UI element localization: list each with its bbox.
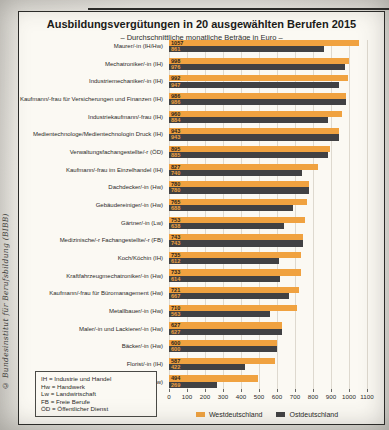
category-label: Medizinische/-r Fachangestellte/-r (FB)	[0, 234, 166, 246]
axis-tick	[223, 389, 224, 392]
ost-value-label: 612	[171, 258, 180, 264]
legend-label: Ostdeutschland	[289, 411, 338, 418]
category-label: Metallbauer/-in (Hw)	[0, 305, 166, 317]
ost-value-label: 638	[171, 223, 180, 229]
ost-value-label: 884	[171, 117, 180, 123]
copyright-sidebar-text: © Bundesinstitut für Berufsbildung (BIBB…	[1, 178, 10, 426]
category-label: Dachdecker/-in (Hw)	[0, 181, 166, 193]
legend-item-ost: Ostdeutschland	[276, 411, 338, 418]
category-label: Gebäudereiniger/-in (Hw)	[0, 199, 166, 211]
axis-tick	[367, 389, 368, 392]
bar-plot-area: 1057861998976992947986986960884943943895…	[169, 40, 367, 390]
ost-bar: 612	[169, 258, 279, 264]
abbreviation-line: FB = Freie Berufe	[41, 398, 151, 406]
ost-bar: 600	[169, 346, 277, 352]
category-label: Florist/-in (IH)	[0, 358, 166, 370]
chart-title: Ausbildungsvergütungen in 20 ausgewählte…	[19, 18, 384, 30]
legend-swatch-icon	[196, 412, 205, 417]
ost-bar: 667	[169, 293, 289, 299]
ost-bar: 743	[169, 240, 303, 246]
category-label-column: Maurer/-in (IH/Hw)Mechatroniker/-in (IH)…	[19, 40, 166, 390]
ost-value-label: 943	[171, 134, 180, 140]
ost-bar: 688	[169, 205, 293, 211]
ost-value-label: 627	[171, 329, 180, 335]
axis-tick-label: 1100	[356, 393, 378, 400]
ost-value-label: 269	[171, 382, 180, 388]
ost-bar: 740	[169, 170, 302, 176]
category-label: Kaufmann/-frau im Einzelhandel (IH)	[0, 164, 166, 176]
category-label: Kaufmann/-frau für Büromanagement (Hw)	[0, 287, 166, 299]
axis-tick	[205, 389, 206, 392]
category-label: Mechatroniker/-in (IH)	[0, 58, 166, 70]
ost-value-label: 947	[171, 82, 180, 88]
category-label: Maler/-in und Lackierer/-in (Hw)	[0, 322, 166, 334]
category-label: Industriemechaniker/-in (IH)	[0, 75, 166, 87]
ost-value-label: 667	[171, 293, 180, 299]
legend-item-west: Westdeutschland	[196, 411, 263, 418]
category-label: Koch/Köchin (IH)	[0, 252, 166, 264]
axis-tick	[169, 389, 170, 392]
axis-tick	[259, 389, 260, 392]
ost-bar: 947	[169, 82, 339, 88]
axis-tick	[349, 389, 350, 392]
ost-bar: 422	[169, 364, 245, 370]
ost-value-label: 743	[171, 240, 180, 246]
axis-tick	[313, 389, 314, 392]
series-legend: WestdeutschlandOstdeutschland	[157, 408, 377, 420]
ost-bar: 986	[169, 99, 346, 105]
abbreviation-line: IH = Industrie und Handel	[41, 375, 151, 383]
axis-tick	[295, 389, 296, 392]
abbreviation-line: ÖD = Öffentlicher Dienst	[41, 405, 151, 413]
ost-value-label: 688	[171, 205, 180, 211]
category-label: Gärtner/-in (Lw)	[0, 217, 166, 229]
ost-bar: 780	[169, 187, 309, 193]
category-label: Kaufmann/-frau für Versicherungen und Fi…	[0, 93, 166, 105]
category-label: Bäcker/-in (Hw)	[0, 340, 166, 352]
abbreviation-legend-box: IH = Industrie und HandelHw = HandwerkLw…	[35, 371, 157, 417]
scanned-page-background: © Bundesinstitut für Berufsbildung (BIBB…	[0, 0, 389, 430]
category-label: Medientechnologe/Medientechnologin Druck…	[0, 128, 166, 140]
ost-bar: 627	[169, 329, 282, 335]
ost-value-label: 422	[171, 364, 180, 370]
ost-bar: 976	[169, 64, 345, 70]
axis-tick	[187, 389, 188, 392]
ost-bar: 614	[169, 276, 280, 282]
ost-bar: 563	[169, 311, 270, 317]
axis-tick	[277, 389, 278, 392]
ost-value-label: 740	[171, 170, 180, 176]
ost-bar: 884	[169, 117, 328, 123]
ost-value-label: 986	[171, 99, 180, 105]
ost-bar: 885	[169, 152, 328, 158]
axis-tick	[331, 389, 332, 392]
legend-label: Westdeutschland	[209, 411, 263, 418]
ost-value-label: 885	[171, 152, 180, 158]
category-label: Industriekaufmann/-frau (IH)	[0, 111, 166, 123]
ost-bar: 638	[169, 223, 284, 229]
page-top-rule	[88, 8, 389, 10]
ost-bar: 269	[169, 382, 217, 388]
axis-tick	[241, 389, 242, 392]
category-label: Verwaltungsfachangestellte/-r (ÖD)	[0, 146, 166, 158]
ost-value-label: 976	[171, 64, 180, 70]
chart-frame: Ausbildungsvergütungen in 20 ausgewählte…	[18, 11, 385, 425]
abbreviation-line: Lw = Landwirtschaft	[41, 390, 151, 398]
ost-value-label: 614	[171, 276, 180, 282]
ost-value-label: 780	[171, 187, 180, 193]
ost-bar: 861	[169, 46, 324, 52]
legend-swatch-icon	[276, 412, 285, 417]
abbreviation-line: Hw = Handwerk	[41, 383, 151, 391]
ost-value-label: 563	[171, 311, 180, 317]
ost-value-label: 861	[171, 46, 180, 52]
category-label: Kraftfahrzeugmechatroniker/-in (Hw)	[0, 269, 166, 281]
gridline	[367, 40, 368, 390]
ost-value-label: 600	[171, 346, 180, 352]
x-axis-labels: 010020030040050060070080090010001100	[169, 393, 367, 401]
ost-bar: 943	[169, 134, 339, 140]
category-label: Maurer/-in (IH/Hw)	[0, 40, 166, 52]
